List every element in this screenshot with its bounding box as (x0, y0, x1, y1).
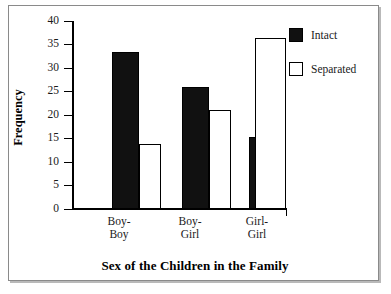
x-axis-title: Sex of the Children in the Family (20, 258, 370, 274)
y-tick-label-25: 25 (25, 85, 59, 97)
y-tick-20 (64, 115, 73, 116)
x-category-label-0: Boy- Boy (79, 215, 159, 241)
x-category-line-2-0: Girl- (217, 215, 297, 228)
y-tick-label-5: 5 (25, 179, 59, 191)
y-tick-30 (64, 68, 73, 69)
legend: Intact Separated (289, 27, 379, 95)
bar-separated-boy-boy (139, 144, 161, 209)
y-tick-0 (64, 209, 73, 210)
y-tick-label-40: 40 (25, 15, 59, 27)
legend-item-separated: Separated (289, 61, 379, 77)
y-tick-label-35: 35 (25, 38, 59, 50)
plot-area: 40 35 30 25 20 15 10 5 0 Boy- Boy Boy- G… (0, 0, 391, 294)
x-category-label-2: Girl- Girl (217, 215, 297, 241)
y-tick-40 (64, 21, 73, 22)
y-tick-10 (64, 162, 73, 163)
bar-intact-boy-boy (112, 52, 139, 209)
y-tick-label-30: 30 (25, 62, 59, 74)
y-axis-title: Frequency (11, 78, 26, 158)
bar-intact-boy-girl (182, 87, 209, 209)
y-tick-label-15: 15 (25, 132, 59, 144)
bar-separated-boy-girl (209, 110, 231, 209)
legend-label-intact: Intact (311, 29, 337, 41)
figure: 40 35 30 25 20 15 10 5 0 Boy- Boy Boy- G… (0, 0, 391, 294)
y-tick-25 (64, 91, 73, 92)
filled-square-icon (289, 28, 303, 42)
y-tick-35 (64, 44, 73, 45)
legend-label-separated: Separated (311, 63, 356, 75)
x-category-line-0-1: Boy (79, 228, 159, 241)
x-category-line-0-0: Boy- (79, 215, 159, 228)
legend-item-intact: Intact (289, 27, 379, 43)
bar-separated-girl-girl (255, 38, 286, 209)
x-category-line-2-1: Girl (217, 228, 297, 241)
y-tick-label-20: 20 (25, 109, 59, 121)
y-tick-15 (64, 138, 73, 139)
y-tick-label-0: 0 (25, 203, 59, 215)
open-square-icon (289, 62, 303, 76)
y-tick-label-10: 10 (25, 156, 59, 168)
y-tick-5 (64, 185, 73, 186)
